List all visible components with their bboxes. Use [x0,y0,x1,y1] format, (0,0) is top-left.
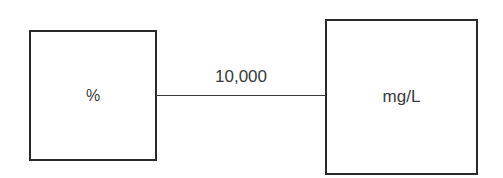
mg-per-liter-node-label: mg/L [383,87,421,107]
conversion-factor-label: 10,000 [156,67,326,87]
mg-per-liter-node: mg/L [325,19,478,175]
percent-node-label: % [86,87,100,105]
percent-node: % [29,30,157,161]
conversion-connector-line [156,95,326,96]
